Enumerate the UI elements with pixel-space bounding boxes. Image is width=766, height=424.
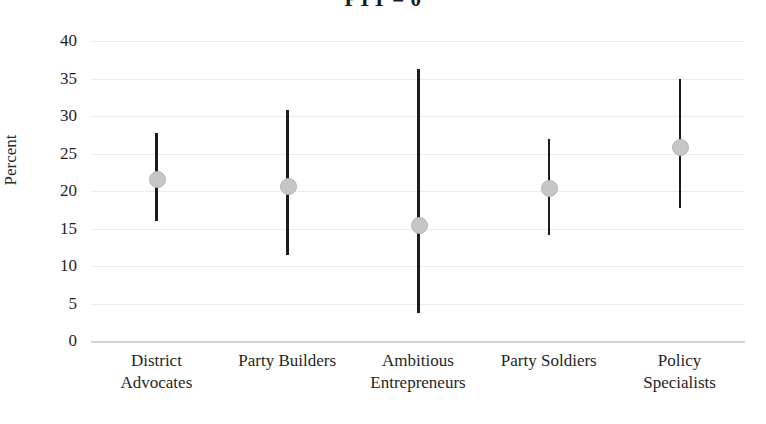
y-tick-label-10: 10	[37, 256, 77, 276]
plot-area: 0510152025303540	[91, 41, 745, 341]
gridline-0	[91, 341, 745, 343]
y-tick-label-20: 20	[37, 181, 77, 201]
gridline-40	[91, 41, 745, 42]
y-tick-label-35: 35	[37, 69, 77, 89]
y-tick-label-30: 30	[37, 106, 77, 126]
error-bar	[417, 69, 420, 314]
chart-figure: PTT = 0 Percent 0510152025303540 Distric…	[0, 0, 766, 424]
y-tick-label-5: 5	[37, 294, 77, 314]
x-tick-label: PolicySpecialists	[595, 350, 765, 394]
x-tick-label-line: Advocates	[71, 372, 241, 394]
x-tick-label-line: Specialists	[595, 372, 765, 394]
y-tick-label-15: 15	[37, 219, 77, 239]
x-tick-label-line: Policy	[595, 350, 765, 372]
point-marker	[672, 139, 689, 156]
chart-title: PTT = 0	[0, 0, 766, 12]
y-tick-label-40: 40	[37, 31, 77, 51]
point-marker	[280, 178, 297, 195]
point-marker	[411, 217, 428, 234]
y-tick-label-25: 25	[37, 144, 77, 164]
point-marker	[541, 180, 558, 197]
y-tick-label-0: 0	[37, 331, 77, 351]
y-axis-label: Percent	[1, 120, 21, 200]
x-tick-label-line: Entrepreneurs	[333, 372, 503, 394]
point-marker	[149, 171, 166, 188]
